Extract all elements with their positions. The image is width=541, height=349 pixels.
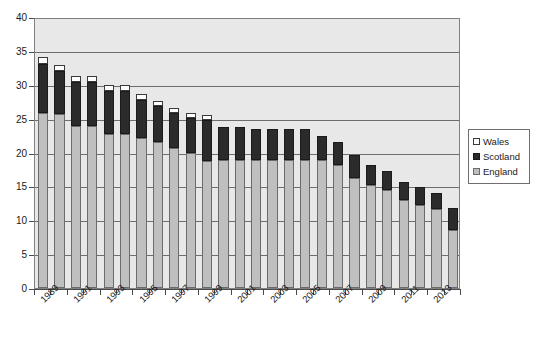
bar-segment-wales <box>54 65 64 71</box>
x-axis-tick <box>132 290 133 295</box>
bar-segment-england <box>186 153 196 289</box>
legend-label-scotland: Scotland <box>483 151 520 162</box>
bar-segment-wales <box>87 76 97 82</box>
legend-label-england: England <box>483 166 518 177</box>
bar-2003 <box>267 17 277 288</box>
gridline <box>35 52 459 53</box>
bar-segment-england <box>300 160 310 288</box>
bar-segment-scotland <box>431 193 441 209</box>
bar-segment-england <box>349 178 359 288</box>
bar-segment-wales <box>71 76 81 82</box>
x-axis-tick <box>362 290 363 295</box>
bar-1999 <box>202 17 212 288</box>
bar-segment-england <box>54 114 64 288</box>
bar-segment-england <box>136 138 146 288</box>
x-axis-tick <box>67 290 68 295</box>
bar-segment-england <box>382 190 392 288</box>
bar-2007 <box>333 17 343 288</box>
x-axis-tick <box>394 290 395 295</box>
bar-segment-scotland <box>267 129 277 159</box>
y-axis-tick <box>29 18 34 19</box>
bar-segment-scotland <box>71 82 81 126</box>
y-axis-tick <box>29 221 34 222</box>
x-axis-tick <box>296 290 297 295</box>
bar-segment-england <box>251 160 261 288</box>
bar-1993 <box>104 17 114 288</box>
bar-1991 <box>71 17 81 288</box>
bar-segment-england <box>267 160 277 288</box>
y-axis-label: 20 <box>5 149 27 159</box>
x-axis-tick <box>165 290 166 295</box>
bar-2004 <box>284 17 294 288</box>
bar-segment-scotland <box>366 165 376 185</box>
bar-segment-england <box>169 148 179 288</box>
bar-segment-scotland <box>235 127 245 160</box>
y-axis-tick <box>29 154 34 155</box>
bar-segment-scotland <box>38 64 48 113</box>
bar-segment-england <box>104 134 114 288</box>
y-axis-tick <box>29 52 34 53</box>
bar-segment-wales <box>202 115 212 120</box>
bar-segment-wales <box>169 108 179 113</box>
bar-segment-scotland <box>87 82 97 126</box>
y-axis-tick <box>29 255 34 256</box>
x-axis-tick <box>198 290 199 295</box>
bar-1998 <box>186 17 196 288</box>
bar-segment-england <box>415 205 425 288</box>
bar-segment-scotland <box>349 155 359 178</box>
bar-1997 <box>169 17 179 288</box>
bar-2014 <box>448 17 458 288</box>
bar-segment-scotland <box>448 208 458 230</box>
england-swatch-icon <box>473 168 480 175</box>
bar-1989 <box>38 17 48 288</box>
bar-1992 <box>87 17 97 288</box>
bar-segment-england <box>317 160 327 288</box>
bar-2009 <box>366 17 376 288</box>
bar-segment-england <box>38 113 48 288</box>
y-axis-tick <box>29 289 34 290</box>
legend-item-wales: Wales <box>473 134 526 149</box>
y-axis-label: 0 <box>5 284 27 294</box>
bar-segment-scotland <box>382 171 392 190</box>
gridline <box>35 154 459 155</box>
legend-item-england: England <box>473 164 526 179</box>
bar-segment-scotland <box>415 187 425 205</box>
y-axis-label: 10 <box>5 216 27 226</box>
x-axis-tick <box>460 290 461 295</box>
bar-segment-england <box>218 160 228 288</box>
x-axis-tick <box>100 290 101 295</box>
bar-segment-scotland <box>104 91 114 134</box>
gridline <box>35 120 459 121</box>
y-axis-tick <box>29 86 34 87</box>
plot-area <box>34 18 460 289</box>
x-axis-tick <box>329 290 330 295</box>
bar-segment-scotland <box>54 71 64 114</box>
bar-2001 <box>235 17 245 288</box>
bar-segment-scotland <box>202 120 212 161</box>
bar-1994 <box>120 17 130 288</box>
stacked-bar-chart: 0510152025303540 19891991199319951997199… <box>0 0 541 349</box>
bar-segment-wales <box>186 113 196 118</box>
bar-2005 <box>300 17 310 288</box>
bar-2002 <box>251 17 261 288</box>
bar-segment-scotland <box>284 129 294 159</box>
bar-segment-england <box>284 160 294 288</box>
gridline <box>35 221 459 222</box>
y-axis-label: 5 <box>5 250 27 260</box>
bar-2013 <box>431 17 441 288</box>
y-axis-label: 25 <box>5 115 27 125</box>
x-axis-tick <box>231 290 232 295</box>
bar-2012 <box>415 17 425 288</box>
bar-segment-england <box>333 165 343 288</box>
bar-segment-wales <box>136 94 146 100</box>
bar-segment-scotland <box>186 118 196 153</box>
bar-segment-scotland <box>399 182 409 200</box>
y-axis-label: 15 <box>5 182 27 192</box>
x-axis-tick <box>34 290 35 295</box>
bar-segment-scotland <box>218 127 228 160</box>
bar-segment-england <box>120 134 130 288</box>
bar-2006 <box>317 17 327 288</box>
bar-segment-england <box>87 126 97 288</box>
bar-segment-scotland <box>120 91 130 134</box>
bar-1990 <box>54 17 64 288</box>
